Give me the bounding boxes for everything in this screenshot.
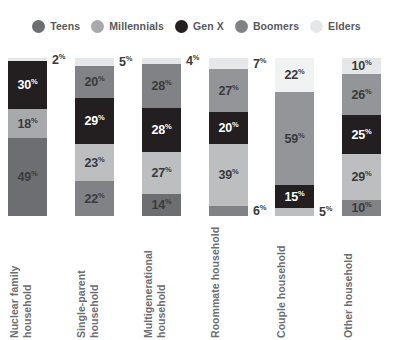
category-label: Other household	[342, 222, 381, 338]
segment-value-label: 22%	[284, 68, 304, 82]
bar-column[interactable]: 4%28%28%27%14%	[142, 58, 181, 216]
bar-segment[interactable]: 39%	[209, 144, 248, 206]
segment-value-label: 49%	[17, 170, 37, 184]
segment-value-label: 10%	[351, 59, 371, 73]
bar-segment[interactable]: 28%	[142, 108, 181, 152]
segment-value-label: 26%	[351, 88, 371, 102]
bar-segment[interactable]: 20%	[209, 112, 248, 144]
percent-symbol: %	[165, 78, 172, 87]
bar-stack: 5%20%29%23%22%	[75, 58, 114, 216]
legend-dot-icon	[235, 20, 248, 33]
percent-symbol: %	[298, 67, 305, 76]
bar-segment[interactable]: 25%	[342, 115, 381, 155]
percent-symbol: %	[260, 203, 267, 212]
bar-segment[interactable]: 27%	[209, 69, 248, 112]
bar-segment[interactable]: 22%	[275, 58, 314, 92]
legend-item-millennials[interactable]: Millennials	[91, 20, 164, 33]
percent-symbol: %	[98, 74, 105, 83]
legend-dot-icon	[175, 20, 188, 33]
percent-symbol: %	[31, 116, 38, 125]
segment-value-label: 22%	[84, 192, 104, 206]
percent-symbol: %	[232, 120, 239, 129]
segment-value-label: 4%	[186, 54, 199, 68]
legend-item-elders[interactable]: Elders	[310, 20, 361, 33]
bar-segment[interactable]: 10%	[342, 200, 381, 216]
legend-item-label: Teens	[50, 20, 80, 32]
segment-value-label: 5%	[119, 55, 132, 69]
percent-symbol: %	[31, 169, 38, 178]
segment-value-label: 14%	[151, 198, 171, 212]
category-label-rotator: Other household	[342, 222, 381, 338]
segment-value-label: 39%	[218, 168, 238, 182]
category-label-text: Couple household	[275, 222, 288, 338]
bar-column[interactable]: 10%26%25%29%10%	[342, 58, 381, 216]
chart-legend: TeensMillennialsGen XBoomersElders	[0, 0, 393, 52]
category-label-rotator: Roommate household	[209, 222, 248, 338]
percent-symbol: %	[365, 58, 372, 67]
bar-segment[interactable]: 6%	[209, 206, 248, 216]
bar-segment[interactable]: 15%	[275, 185, 314, 208]
legend-item-gen-x[interactable]: Gen X	[175, 20, 224, 33]
category-label-text: Nuclear family household	[8, 222, 35, 338]
bar-segment[interactable]: 5%	[75, 58, 114, 66]
bar-segment[interactable]: 20%	[75, 66, 114, 98]
bar-segment[interactable]: 10%	[342, 58, 381, 74]
bar-segment[interactable]: 26%	[342, 74, 381, 115]
percent-symbol: %	[31, 77, 38, 86]
bar-segment[interactable]: 27%	[142, 152, 181, 194]
category-label: Multigenerational household	[142, 222, 181, 338]
percent-symbol: %	[365, 169, 372, 178]
percent-symbol: %	[232, 167, 239, 176]
bar-segment[interactable]: 59%	[275, 92, 314, 184]
percent-symbol: %	[98, 155, 105, 164]
segment-value-label: 27%	[151, 166, 171, 180]
bar-column[interactable]: 5%20%29%23%22%	[75, 58, 114, 216]
segment-value-label: 29%	[351, 170, 371, 184]
segment-value-label: 20%	[84, 75, 104, 89]
segment-value-label: 59%	[284, 132, 304, 146]
percent-symbol: %	[165, 122, 172, 131]
percent-symbol: %	[365, 200, 372, 209]
bar-segment[interactable]: 5%	[275, 208, 314, 216]
bar-segment[interactable]: 28%	[142, 64, 181, 108]
category-label-text: Single-parent household	[75, 222, 102, 338]
segment-value-label: 6%	[253, 204, 266, 218]
bar-segment[interactable]: 18%	[8, 109, 47, 138]
segment-value-label: 29%	[84, 114, 104, 128]
segment-value-label: 7%	[253, 57, 266, 71]
segment-value-label: 28%	[151, 123, 171, 137]
category-label-text: Other household	[342, 222, 355, 338]
bar-segment[interactable]: 49%	[8, 138, 47, 216]
category-label-rotator: Single-parent household	[75, 222, 114, 338]
percent-symbol: %	[365, 127, 372, 136]
bar-segment[interactable]: 14%	[142, 194, 181, 216]
bar-segment[interactable]: 29%	[342, 154, 381, 200]
category-label-text: Roommate household	[209, 222, 222, 338]
bar-column[interactable]: 7%27%20%39%6%	[209, 58, 248, 216]
category-label-rotator: Multigenerational household	[142, 222, 181, 338]
segment-value-label: 15%	[284, 190, 304, 204]
segment-value-label: 2%	[52, 53, 65, 67]
legend-item-teens[interactable]: Teens	[32, 20, 80, 33]
bar-segment[interactable]: 22%	[75, 181, 114, 216]
legend-item-boomers[interactable]: Boomers	[235, 20, 299, 33]
segment-value-label: 25%	[351, 128, 371, 142]
category-axis-labels: Nuclear family householdSingle-parent ho…	[0, 222, 393, 340]
bar-segment[interactable]: 30%	[8, 61, 47, 109]
percent-symbol: %	[232, 83, 239, 92]
legend-item-label: Elders	[328, 20, 361, 32]
bar-segment[interactable]: 23%	[75, 144, 114, 181]
percent-symbol: %	[193, 53, 200, 62]
segment-value-label: 27%	[218, 84, 238, 98]
segment-value-label: 30%	[17, 78, 37, 92]
bar-column[interactable]: 2%30%18%49%	[8, 58, 47, 216]
segment-value-label: 5%	[319, 205, 332, 219]
percent-symbol: %	[165, 165, 172, 174]
percent-symbol: %	[326, 204, 333, 213]
segment-value-label: 28%	[151, 79, 171, 93]
category-label-text: Multigenerational household	[142, 222, 169, 338]
bar-segment[interactable]: 7%	[209, 58, 248, 69]
bar-segment[interactable]: 29%	[75, 98, 114, 144]
bar-column[interactable]: 22%59%15%5%	[275, 58, 314, 216]
bar-stack: 22%59%15%5%	[275, 58, 314, 216]
